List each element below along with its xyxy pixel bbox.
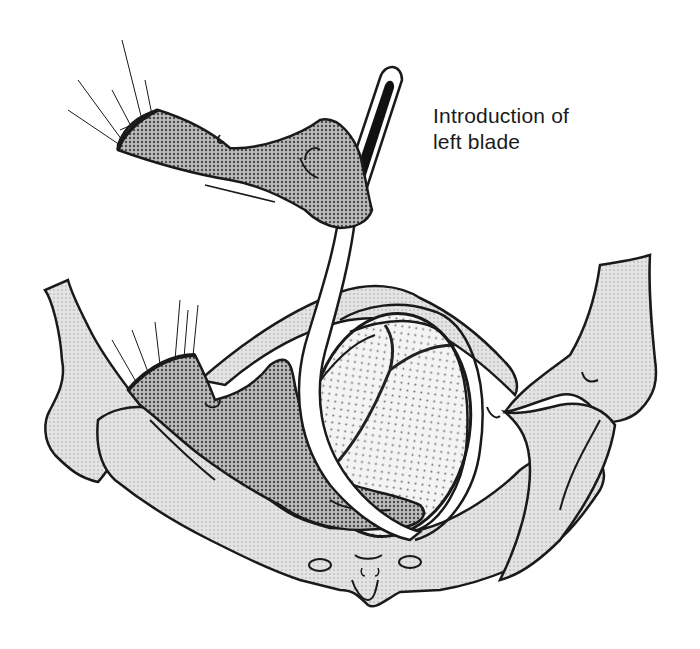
forceps-illustration: Introduction of left blade xyxy=(0,0,700,649)
upper-hand xyxy=(68,40,372,228)
upper-glove xyxy=(118,110,372,228)
illustration-canvas xyxy=(0,0,700,649)
caption-line-1: Introduction of xyxy=(433,103,569,129)
figure-caption: Introduction of left blade xyxy=(433,103,569,155)
right-iliac-wing xyxy=(505,255,656,422)
caption-line-2: left blade xyxy=(433,129,569,155)
